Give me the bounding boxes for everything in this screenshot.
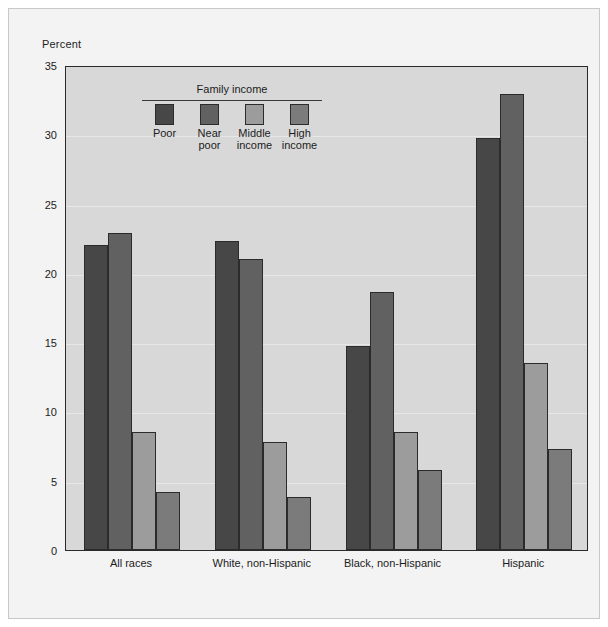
- y-axis-tick: 0: [51, 545, 57, 557]
- bar: [548, 449, 572, 550]
- legend-swatch: [245, 104, 264, 125]
- bar: [239, 259, 263, 550]
- legend-label: High income: [277, 128, 322, 151]
- legend: Family income PoorNear poorMiddle income…: [142, 83, 322, 155]
- legend-label: Near poor: [187, 128, 232, 151]
- legend-title: Family income: [142, 83, 322, 95]
- chart-screenshot: Percent 05101520253035 All racesWhite, n…: [0, 0, 608, 627]
- bar: [215, 241, 239, 550]
- x-axis-label: All races: [110, 557, 152, 569]
- x-axis-label: Black, non-Hispanic: [344, 557, 441, 569]
- legend-item: Middle income: [232, 104, 277, 151]
- y-axis-tick: 20: [45, 268, 57, 280]
- bar: [418, 470, 442, 550]
- legend-swatch: [290, 104, 309, 125]
- y-axis-tick: 30: [45, 129, 57, 141]
- bar: [500, 94, 524, 550]
- legend-label: Poor: [142, 128, 187, 140]
- legend-label: Middle income: [232, 128, 277, 151]
- bar: [263, 442, 287, 550]
- figure-card: Percent 05101520253035 All racesWhite, n…: [8, 8, 600, 619]
- y-axis-tick: 15: [45, 337, 57, 349]
- legend-item: Poor: [142, 104, 187, 140]
- y-axis-tick: 5: [51, 476, 57, 488]
- bar: [132, 432, 156, 550]
- legend-item: Near poor: [187, 104, 232, 151]
- bar: [108, 233, 132, 550]
- y-axis-tick: 25: [45, 199, 57, 211]
- legend-swatch: [155, 104, 174, 125]
- x-axis-category-labels: All racesWhite, non-HispanicBlack, non-H…: [65, 557, 588, 579]
- legend-swatch: [200, 104, 219, 125]
- legend-item: High income: [277, 104, 322, 151]
- bar: [370, 292, 394, 550]
- legend-underline: [142, 100, 322, 101]
- bar: [156, 492, 180, 550]
- bar: [524, 363, 548, 550]
- bar: [476, 138, 500, 550]
- bar: [394, 432, 418, 550]
- x-axis-label: Hispanic: [502, 557, 544, 569]
- y-axis-tick-labels: 05101520253035: [9, 9, 65, 618]
- bar: [346, 346, 370, 550]
- bar: [287, 497, 311, 550]
- y-axis-tick: 35: [45, 60, 57, 72]
- x-axis-label: White, non-Hispanic: [213, 557, 311, 569]
- y-axis-tick: 10: [45, 406, 57, 418]
- bar: [84, 245, 108, 550]
